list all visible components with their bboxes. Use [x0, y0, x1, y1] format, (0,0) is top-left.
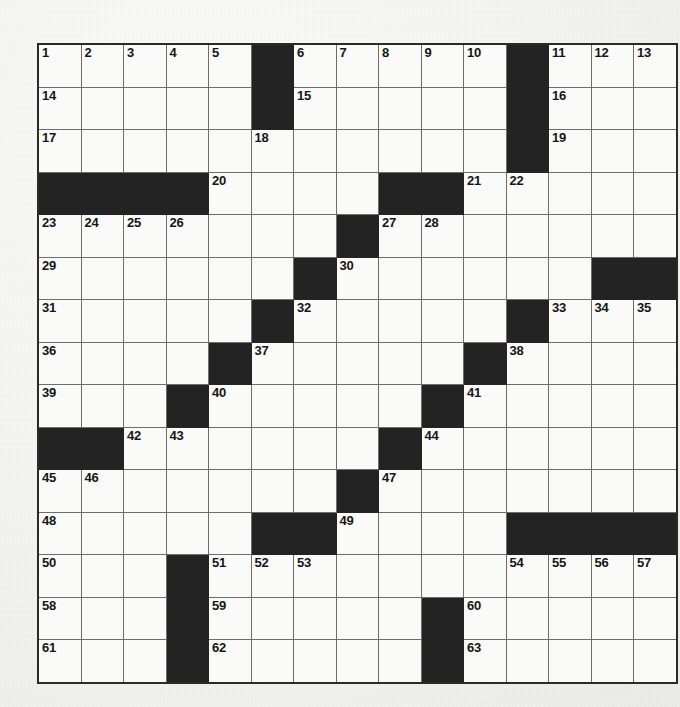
crossword-cell[interactable] — [421, 555, 464, 598]
crossword-cell[interactable] — [336, 87, 379, 130]
crossword-cell[interactable] — [464, 87, 507, 130]
crossword-cell[interactable] — [464, 257, 507, 300]
crossword-cell[interactable] — [549, 640, 592, 683]
crossword-cell[interactable] — [421, 130, 464, 173]
crossword-cell[interactable] — [634, 130, 677, 173]
crossword-cell[interactable] — [549, 172, 592, 215]
crossword-cell[interactable] — [634, 640, 677, 683]
crossword-cell[interactable]: 10 — [464, 44, 507, 87]
crossword-cell[interactable] — [379, 512, 422, 555]
crossword-cell[interactable] — [591, 597, 634, 640]
crossword-cell[interactable] — [251, 172, 294, 215]
crossword-cell[interactable]: 56 — [591, 555, 634, 598]
crossword-cell[interactable] — [591, 385, 634, 428]
crossword-cell[interactable] — [464, 555, 507, 598]
crossword-cell[interactable] — [294, 597, 337, 640]
crossword-cell[interactable] — [251, 215, 294, 258]
crossword-cell[interactable]: 49 — [336, 512, 379, 555]
crossword-cell[interactable] — [166, 87, 209, 130]
crossword-cell[interactable] — [336, 597, 379, 640]
crossword-cell[interactable] — [464, 427, 507, 470]
crossword-cell[interactable] — [421, 470, 464, 513]
crossword-cell[interactable] — [591, 215, 634, 258]
crossword-cell[interactable]: 48 — [38, 512, 81, 555]
crossword-cell[interactable]: 47 — [379, 470, 422, 513]
crossword-cell[interactable] — [379, 640, 422, 683]
crossword-cell[interactable] — [506, 427, 549, 470]
crossword-cell[interactable]: 39 — [38, 385, 81, 428]
crossword-cell[interactable] — [124, 640, 167, 683]
crossword-cell[interactable] — [294, 427, 337, 470]
crossword-cell[interactable] — [379, 300, 422, 343]
crossword-cell[interactable] — [421, 300, 464, 343]
crossword-cell[interactable]: 58 — [38, 597, 81, 640]
crossword-cell[interactable]: 25 — [124, 215, 167, 258]
crossword-cell[interactable] — [294, 342, 337, 385]
crossword-cell[interactable] — [379, 130, 422, 173]
crossword-cell[interactable]: 19 — [549, 130, 592, 173]
crossword-cell[interactable]: 23 — [38, 215, 81, 258]
crossword-cell[interactable] — [634, 215, 677, 258]
crossword-cell[interactable] — [591, 470, 634, 513]
crossword-cell[interactable] — [209, 257, 252, 300]
crossword-cell[interactable] — [379, 597, 422, 640]
crossword-cell[interactable] — [336, 385, 379, 428]
crossword-cell[interactable] — [124, 342, 167, 385]
crossword-cell[interactable] — [591, 172, 634, 215]
crossword-cell[interactable]: 51 — [209, 555, 252, 598]
crossword-cell[interactable] — [166, 130, 209, 173]
crossword-cell[interactable] — [336, 342, 379, 385]
crossword-cell[interactable] — [251, 597, 294, 640]
crossword-cell[interactable] — [421, 257, 464, 300]
crossword-cell[interactable] — [209, 87, 252, 130]
crossword-cell[interactable] — [166, 470, 209, 513]
crossword-cell[interactable] — [294, 130, 337, 173]
crossword-cell[interactable] — [634, 87, 677, 130]
crossword-cell[interactable]: 21 — [464, 172, 507, 215]
crossword-cell[interactable] — [81, 555, 124, 598]
crossword-cell[interactable]: 29 — [38, 257, 81, 300]
crossword-cell[interactable]: 57 — [634, 555, 677, 598]
crossword-cell[interactable] — [464, 300, 507, 343]
crossword-cell[interactable] — [81, 257, 124, 300]
crossword-cell[interactable] — [591, 342, 634, 385]
crossword-cell[interactable]: 36 — [38, 342, 81, 385]
crossword-cell[interactable] — [336, 555, 379, 598]
crossword-cell[interactable] — [294, 172, 337, 215]
crossword-cell[interactable] — [464, 512, 507, 555]
crossword-cell[interactable]: 18 — [251, 130, 294, 173]
crossword-cell[interactable] — [634, 385, 677, 428]
crossword-cell[interactable] — [379, 385, 422, 428]
crossword-cell[interactable] — [251, 640, 294, 683]
crossword-cell[interactable]: 31 — [38, 300, 81, 343]
crossword-cell[interactable]: 53 — [294, 555, 337, 598]
crossword-cell[interactable] — [209, 470, 252, 513]
crossword-cell[interactable] — [209, 512, 252, 555]
crossword-cell[interactable]: 14 — [38, 87, 81, 130]
crossword-cell[interactable]: 27 — [379, 215, 422, 258]
crossword-cell[interactable]: 15 — [294, 87, 337, 130]
crossword-cell[interactable]: 6 — [294, 44, 337, 87]
crossword-cell[interactable]: 34 — [591, 300, 634, 343]
crossword-cell[interactable] — [506, 385, 549, 428]
crossword-cell[interactable]: 4 — [166, 44, 209, 87]
crossword-cell[interactable]: 55 — [549, 555, 592, 598]
crossword-cell[interactable] — [124, 300, 167, 343]
crossword-cell[interactable]: 26 — [166, 215, 209, 258]
crossword-cell[interactable] — [506, 470, 549, 513]
crossword-cell[interactable] — [549, 385, 592, 428]
crossword-cell[interactable] — [81, 640, 124, 683]
crossword-cell[interactable] — [464, 215, 507, 258]
crossword-cell[interactable] — [591, 87, 634, 130]
crossword-cell[interactable] — [124, 555, 167, 598]
crossword-cell[interactable]: 22 — [506, 172, 549, 215]
crossword-cell[interactable] — [81, 87, 124, 130]
crossword-cell[interactable] — [379, 555, 422, 598]
crossword-cell[interactable] — [124, 257, 167, 300]
crossword-cell[interactable]: 5 — [209, 44, 252, 87]
crossword-cell[interactable]: 1 — [38, 44, 81, 87]
crossword-cell[interactable]: 8 — [379, 44, 422, 87]
crossword-cell[interactable]: 54 — [506, 555, 549, 598]
crossword-cell[interactable] — [251, 385, 294, 428]
crossword-cell[interactable] — [336, 300, 379, 343]
